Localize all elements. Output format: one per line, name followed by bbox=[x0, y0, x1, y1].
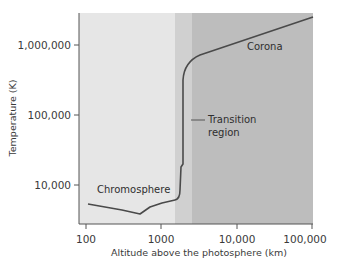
x-tick-label: 1000 bbox=[148, 233, 175, 245]
temperature-altitude-chart: 1,000,000 100,000 10,000 100 1000 10,000… bbox=[0, 0, 339, 266]
x-tick-label: 100 bbox=[76, 233, 96, 245]
chromosphere-label: Chromosphere bbox=[97, 184, 170, 195]
x-axis-title: Altitude above the photosphere (km) bbox=[111, 247, 287, 258]
transition-label-line2: region bbox=[208, 127, 240, 138]
y-tick-label: 100,000 bbox=[28, 109, 71, 121]
y-tick-label: 1,000,000 bbox=[18, 39, 71, 51]
transition-label-line1: Transition bbox=[207, 114, 256, 125]
corona-label: Corona bbox=[247, 41, 283, 52]
y-axis-title: Temperature (K) bbox=[7, 80, 18, 158]
x-tick-label: 10,000 bbox=[219, 233, 256, 245]
x-tick-label: 100,000 bbox=[283, 233, 326, 245]
y-tick-label: 10,000 bbox=[34, 179, 71, 191]
